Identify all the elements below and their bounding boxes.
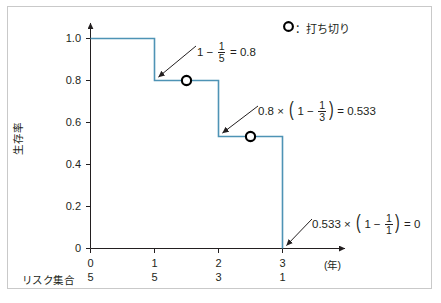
x-tick-label-1: 1 [142, 257, 168, 269]
y-tick-label-0.4: 0.4 [47, 158, 81, 170]
annotation-1-rhs: = 0.8 [230, 46, 256, 58]
y-tick-label-0.2: 0.2 [47, 200, 81, 212]
legend-label-censored: ：打ち切り [295, 20, 350, 36]
annotation-3-rhs: = 0 [404, 218, 420, 230]
annotation-3-arrow [287, 219, 313, 246]
y-tick-label-0.8: 0.8 [47, 74, 81, 86]
risk-set-value-0: 5 [78, 271, 104, 283]
annotation-1-fraction: 15 [218, 41, 226, 64]
annotation-1-arrow [159, 46, 197, 77]
x-tick-label-3: 3 [270, 257, 296, 269]
annotation-2-arrow [223, 106, 259, 133]
annotation-3-denominator: 1 [385, 225, 393, 236]
risk-set-title: リスク集合 [22, 272, 74, 287]
annotation-2-numerator: 1 [318, 100, 326, 112]
annotation-2-fraction: 13 [318, 100, 326, 123]
x-axis-unit-label: (年) [324, 257, 341, 272]
legend-open-circle-icon [284, 22, 293, 31]
y-tick-label-0.6: 0.6 [47, 116, 81, 128]
annotation-2-denominator: 3 [318, 112, 326, 123]
annotation-3-one: 1 [364, 218, 370, 230]
y-tick-label-1.0: 1.0 [47, 32, 81, 44]
x-tick-label-0: 0 [78, 257, 104, 269]
risk-set-value-3: 1 [270, 271, 296, 283]
annotation-1-numerator: 1 [218, 41, 226, 53]
annotation-3-minus: − [374, 218, 381, 230]
annotation-2-rhs: = 0.533 [337, 105, 376, 117]
censored-marker-2 [246, 132, 255, 141]
x-tick-label-2: 2 [206, 257, 232, 269]
y-axis-ticks [86, 39, 91, 249]
censored-marker-1 [182, 76, 191, 85]
annotation-1-formula: 1−15= 0.8 [197, 41, 256, 64]
annotation-1-minus: − [206, 46, 213, 58]
y-axis-title: 生存率 [10, 109, 25, 169]
y-tick-label-0: 0 [47, 242, 81, 254]
annotation-3-fraction: 11 [385, 213, 393, 236]
survival-step-curve [91, 39, 283, 249]
annotation-2-minus: − [307, 105, 314, 117]
x-axis [91, 249, 346, 254]
risk-set-value-2: 3 [206, 271, 232, 283]
annotation-1-lhs: 1 [197, 46, 203, 58]
risk-set-value-1: 5 [142, 271, 168, 283]
kaplan-meier-figure: 1.0 0.8 0.6 0.4 0.2 0 生存率 0 1 2 3 (年) リス… [0, 0, 441, 303]
annotation-3-numerator: 1 [385, 213, 393, 225]
annotation-3-lhs: 0.533 × [312, 218, 351, 230]
annotation-2-lhs: 0.8 × [258, 105, 284, 117]
annotation-2-formula: 0.8 ×(1−13)= 0.533 [258, 100, 376, 123]
annotation-1-denominator: 5 [218, 53, 226, 64]
y-axis [86, 23, 91, 249]
annotation-2-one: 1 [298, 105, 304, 117]
x-axis-ticks [91, 249, 283, 254]
annotation-3-formula: 0.533 ×(1−11)= 0 [312, 213, 420, 236]
